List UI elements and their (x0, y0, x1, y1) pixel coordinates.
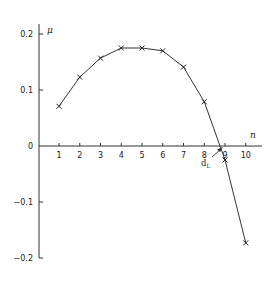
x-marker-icon (181, 65, 186, 70)
data-line (59, 48, 246, 243)
y-tick-label: 0.1 (20, 86, 33, 95)
x-marker-icon (202, 99, 207, 104)
y-tick-label: −0.2 (14, 254, 33, 263)
y-tick-label: 0 (28, 142, 33, 151)
x-tick-label: 10 (241, 151, 251, 160)
x-tick-label: 4 (119, 151, 124, 160)
y-tick-label: −0.1 (14, 198, 33, 207)
dl-label: dL (201, 158, 210, 169)
x-tick-label: 1 (56, 151, 61, 160)
x-tick-label: 5 (139, 151, 144, 160)
chart: 0.20.10−0.1−0.2 12345678910 μ n dL (0, 0, 279, 285)
x-marker-icon (57, 104, 62, 109)
x-marker-icon (98, 56, 103, 61)
x-marker-icon (77, 75, 82, 80)
y-axis-label: μ (47, 25, 53, 35)
x-tick-label: 3 (98, 151, 103, 160)
y-tick-label: 0.2 (20, 30, 33, 39)
x-tick-label: 6 (160, 151, 165, 160)
x-tick-label: 2 (77, 151, 82, 160)
x-tick-label: 7 (181, 151, 186, 160)
x-axis-label: n (250, 130, 256, 140)
